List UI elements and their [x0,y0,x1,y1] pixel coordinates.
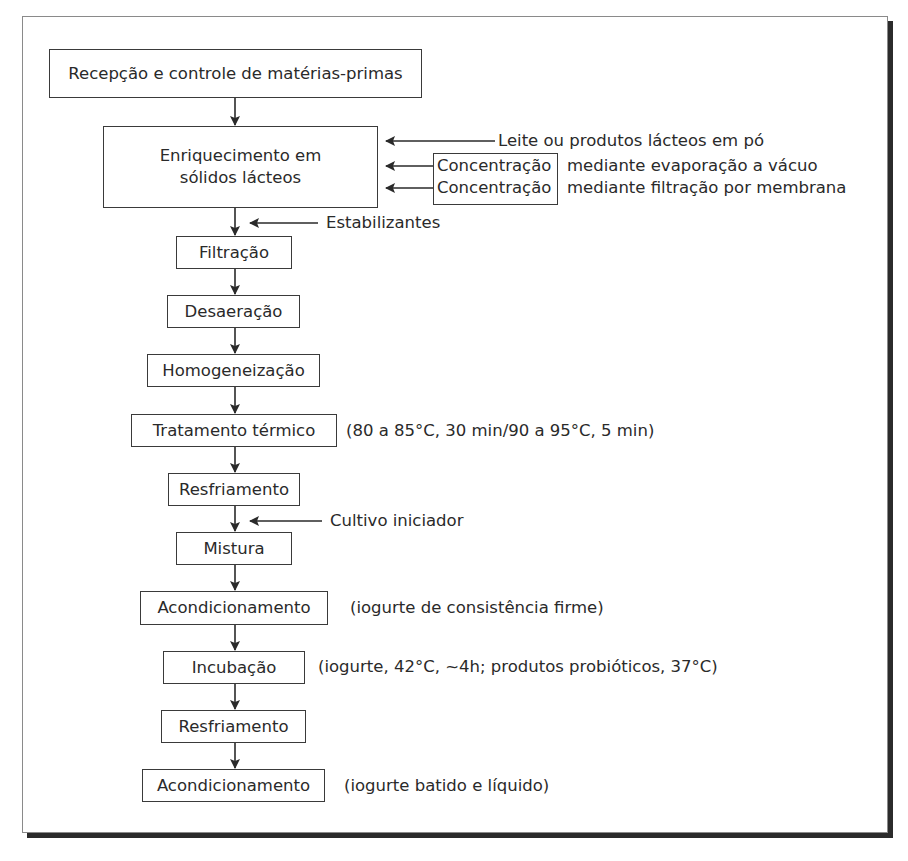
step-mixing: Mistura [176,532,292,565]
concentration-label-1: Concentração [437,155,551,177]
concentration-detail-evaporation: mediante evaporação a vácuo [567,155,818,177]
input-stabilizers: Estabilizantes [326,212,440,234]
step-label: Resfriamento [179,479,289,501]
step-label: Mistura [203,538,264,560]
step-enrichment: Enriquecimento em sólidos lácteos [103,126,378,208]
step-label: Desaeração [185,301,283,323]
input-milk-powder: Leite ou produtos lácteos em pó [498,130,764,152]
step-packaging-1: Acondicionamento [140,591,328,625]
input-starter-culture: Cultivo iniciador [330,510,463,532]
step-label: Incubação [192,657,277,679]
step-deaeration: Desaeração [167,295,300,328]
step-label: Acondicionamento [157,597,310,619]
note-packaging-stirred: (iogurte batido e líquido) [344,775,549,797]
step-label: Tratamento térmico [153,420,316,442]
step-incubation: Incubação [163,651,305,684]
step-label: Filtração [199,242,269,264]
step-homogenization: Homogeneização [147,354,320,387]
step-cooling-2: Resfriamento [161,710,306,743]
note-packaging-firm: (iogurte de consistência firme) [350,597,604,619]
step-label: Homogeneização [162,360,305,382]
note-heat-treatment: (80 a 85°C, 30 min/90 a 95°C, 5 min) [346,420,654,442]
step-heat-treatment: Tratamento térmico [131,414,337,447]
step-label: Resfriamento [178,716,288,738]
step-receiving-control: Recepção e controle de matérias-primas [49,49,422,98]
concentration-detail-membrane: mediante filtração por membrana [567,177,846,199]
step-label: Recepção e controle de matérias-primas [68,63,402,85]
step-label-line1: Enriquecimento em [160,145,322,167]
concentration-label-2: Concentração [437,177,551,199]
step-label-line2: sólidos lácteos [180,167,301,189]
step-cooling-1: Resfriamento [168,473,300,506]
step-filtration: Filtração [176,236,292,269]
note-incubation: (iogurte, 42°C, ~4h; produtos probiótico… [318,656,718,678]
step-label: Acondicionamento [157,775,310,797]
step-packaging-2: Acondicionamento [142,769,325,802]
